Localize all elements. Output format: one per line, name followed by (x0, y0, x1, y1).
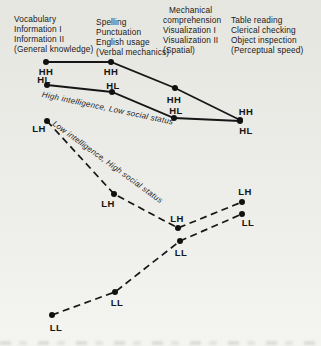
point-label-HH: HH (104, 66, 119, 77)
column-header-line: Vocabulary (14, 14, 93, 24)
point-label-HL: HL (37, 74, 50, 85)
column-header-line: Object inspection (231, 35, 303, 45)
point-label-LH: LH (238, 186, 251, 197)
data-point-LH (175, 225, 181, 231)
column-header-line: (Perceptual speed) (231, 45, 303, 55)
column-header-line: comprehension (163, 15, 221, 25)
column-header-line: Visualization I (163, 25, 221, 35)
column-header-line: Mechanical (163, 5, 221, 15)
column-header-4: Table readingClerical checkingObject ins… (231, 15, 303, 55)
point-label-HH: HH (167, 94, 182, 105)
column-header-line: (Verbal mechanics) (96, 47, 169, 57)
column-header-line: Information I (14, 24, 93, 34)
point-label-LH: LH (101, 198, 114, 209)
point-label-HL: HL (239, 125, 252, 136)
column-header-line: Information II (14, 34, 93, 44)
data-point-HH (108, 59, 114, 65)
column-header-3: MechanicalcomprehensionVisualization IVi… (163, 5, 221, 55)
profile-chart-figure: VocabularyInformation IInformation II(Ge… (0, 0, 321, 346)
data-point-LL (49, 312, 55, 318)
point-label-LL: LL (50, 322, 62, 333)
data-point-HH (43, 59, 49, 65)
column-header-line: Punctuation (96, 27, 169, 37)
data-point-LH (111, 191, 117, 197)
series-line-LL (52, 214, 242, 315)
data-point-HL (237, 118, 243, 124)
column-header-line: Clerical checking (231, 25, 303, 35)
column-header-line: (Spatial) (163, 45, 221, 55)
data-point-LH (239, 199, 245, 205)
point-label-LL: LL (242, 217, 254, 228)
data-point-HH (172, 85, 178, 91)
point-label-LL: LL (175, 247, 187, 258)
data-point-LL (112, 289, 118, 295)
point-label-LL: LL (111, 297, 123, 308)
point-label-HL: HL (169, 105, 182, 116)
column-header-line: (General knowledge) (14, 44, 93, 54)
column-header-line: Table reading (231, 15, 303, 25)
page-edge-artifact (0, 341, 321, 345)
column-header-line: Visualization II (163, 35, 221, 45)
column-header-1: VocabularyInformation IInformation II(Ge… (14, 14, 93, 54)
column-header-line: Spelling (96, 17, 169, 27)
column-header-2: SpellingPunctuationEnglish usage(Verbal … (96, 17, 169, 57)
point-label-HH: HH (239, 106, 254, 117)
point-label-HL: HL (106, 80, 119, 91)
column-header-line: English usage (96, 37, 169, 47)
point-label-LH: LH (170, 213, 183, 224)
point-label-LH: LH (32, 123, 45, 134)
data-point-LL (177, 238, 183, 244)
